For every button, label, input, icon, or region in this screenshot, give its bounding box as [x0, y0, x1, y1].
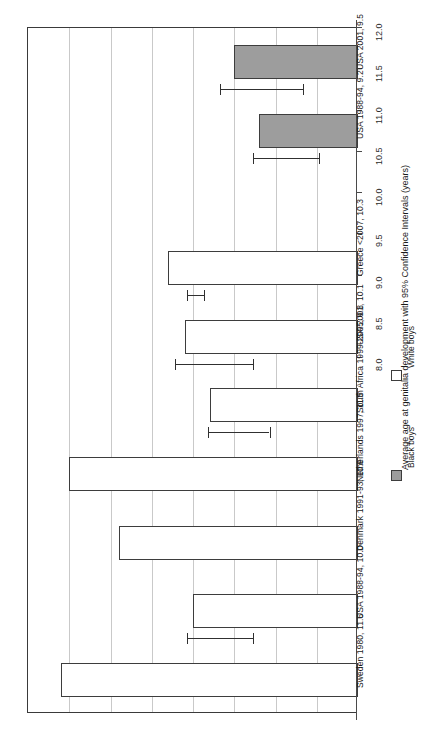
error-bar-cap [253, 633, 254, 644]
tick-label-8.5: 8.5 [374, 317, 384, 330]
error-bar-cap [220, 84, 221, 95]
chart-root: 8.08.59.09.510.010.511.011.512.0 USA 200… [0, 0, 431, 739]
bar-label: USA 1988-94, 10.0 [355, 546, 365, 620]
bar-label: USA 2001, 9.5 [355, 14, 365, 70]
tick-label-10.0: 10.0 [374, 188, 384, 206]
error-bar-line [187, 295, 204, 296]
bar-label: Sweden 1980, 11.6 [355, 613, 365, 687]
tick-label-8.0: 8.0 [374, 358, 384, 371]
bar [234, 45, 358, 79]
error-bar-cap [187, 290, 188, 301]
error-bar-line [253, 158, 319, 159]
axis-title: Average age at genitalia development wit… [400, 165, 410, 470]
bar-label: Denmark 1991-93, 10.9 [355, 459, 365, 550]
legend-swatch-white-boys [391, 370, 402, 381]
plot-area [27, 27, 357, 713]
bar [61, 663, 358, 697]
error-bar-cap [253, 153, 254, 164]
legend-label-black-boys: Black boys [406, 427, 416, 468]
legend-label-white-boys: White boys [406, 326, 416, 368]
tick-10.0 [356, 192, 362, 193]
error-bar-cap [187, 633, 188, 644]
legend-swatch-black-boys [391, 470, 402, 481]
tick-label-10.5: 10.5 [374, 147, 384, 165]
error-bar-cap [303, 84, 304, 95]
error-bar-cap [204, 290, 205, 301]
bar [69, 457, 358, 491]
gridline-11.5 [69, 28, 70, 712]
gridline-11.0 [111, 28, 112, 712]
bar [168, 251, 358, 285]
error-bar-line [208, 432, 270, 433]
error-bar-cap [319, 153, 320, 164]
tick-label-9.0: 9.0 [374, 276, 384, 289]
bar-label: Greece <2007, 10.3 [355, 199, 365, 276]
bar [119, 526, 358, 560]
bar [193, 594, 358, 628]
tick-label-11.0: 11.0 [374, 107, 384, 124]
tick-10.5 [356, 151, 362, 152]
bar [259, 114, 358, 148]
bar [185, 320, 358, 354]
bar-label: USA 1988-94, 9.2 [355, 70, 365, 139]
error-bar-cap [270, 427, 271, 438]
bar [210, 388, 359, 422]
error-bar-cap [253, 359, 254, 370]
error-bar-line [175, 364, 253, 365]
error-bar-cap [175, 359, 176, 370]
error-bar-line [220, 89, 303, 90]
error-bar-cap [208, 427, 209, 438]
tick-label-12.0: 12.0 [374, 23, 384, 41]
error-bar-line [187, 638, 253, 639]
tick-label-11.5: 11.5 [374, 65, 384, 82]
tick-label-9.5: 9.5 [374, 235, 384, 248]
gridline-10.5 [152, 28, 153, 712]
